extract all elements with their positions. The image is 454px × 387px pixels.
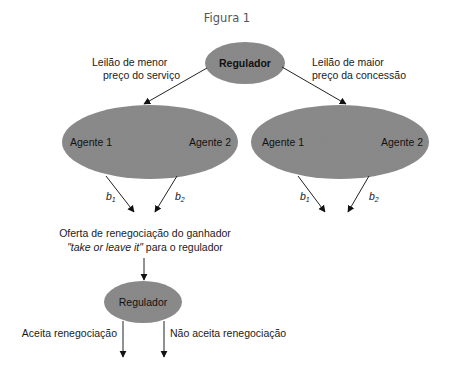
left-branch-label-line1: Leilão de menor (92, 56, 168, 68)
right-agent2-label: Agente 2 (381, 136, 423, 148)
top-regulator-label: Regulador (219, 57, 271, 69)
figure-title: Figura 1 (204, 11, 250, 25)
left-branch-label-line2: preço do serviço (103, 69, 180, 81)
right-bid2-arrow (348, 176, 369, 212)
left-bid2-label: b2 (175, 190, 185, 203)
left-auction-node: Agente 1 Agente 2 (62, 105, 238, 179)
left-agent2-label: Agente 2 (189, 136, 231, 148)
left-bid1-label: b1 (106, 190, 116, 203)
renegotiation-offer-line1: Oferta de renegociação do ganhador (59, 227, 231, 239)
right-branch-label-line2: preço da concessão (312, 69, 406, 81)
reject-label: Não aceita renegociação (170, 327, 286, 339)
accept-label: Aceita renegociação (22, 327, 117, 339)
renegotiation-offer-line2: "take or leave it" para o regulador (67, 241, 223, 253)
right-branch-label-line1: Leilão de maior (312, 56, 384, 68)
game-tree-diagram: Figura 1 Regulador Leilão de menor preço… (0, 0, 454, 387)
bottom-regulator-label: Regulador (119, 296, 168, 308)
right-agent1-label: Agente 1 (262, 136, 304, 148)
right-bid2-label: b2 (369, 190, 379, 203)
left-bid2-arrow (155, 176, 177, 212)
top-regulator-node: Regulador (205, 42, 285, 84)
right-bid1-label: b1 (300, 190, 310, 203)
bottom-regulator-node: Regulador (104, 281, 182, 323)
right-auction-node: Agente 1 Agente 2 (251, 105, 429, 179)
left-agent1-label: Agente 1 (70, 136, 112, 148)
